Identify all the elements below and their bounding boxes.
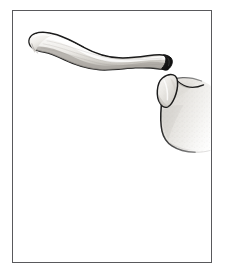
- anatomical-illustration: [13, 11, 211, 262]
- figure-frame: [12, 10, 212, 263]
- figure-root: Clavicle and scapula, superior view: [0, 0, 229, 279]
- figure-title: Clavicle and scapula, superior view: [0, 0, 1, 1]
- figure-caption: [0, 0, 1, 1]
- clavicle: [25, 29, 178, 75]
